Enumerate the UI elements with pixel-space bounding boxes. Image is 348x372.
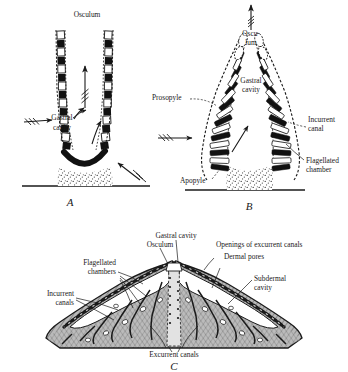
panel-letter-c: C: [170, 360, 178, 372]
label-subdermal-cavity-c-line2: cavity: [254, 283, 272, 292]
label-dermal-pores-c: Dermal pores: [224, 252, 264, 261]
label-openings-excurrent-canals-c: Openings of excurrent canals: [216, 240, 303, 249]
label-gastral-cavity-b-line1: Gastral: [240, 76, 261, 85]
label-gastral-cavity-a-line1: Gastral: [51, 113, 72, 122]
label-flagellated-chamber-b-line2: chamber: [306, 165, 332, 174]
label-incurrent-canal-b-line1: Incurrent: [308, 115, 336, 124]
label-osculum-c: Osculum: [147, 240, 174, 249]
label-gastral-cavity-a-line2: cavity: [53, 123, 71, 132]
label-flagellated-chambers-c-line2: chambers: [88, 267, 116, 276]
label-excurrent-canals-c: Excurrent canals: [149, 350, 199, 359]
osculum-c: [166, 263, 182, 271]
label-gastral-cavity-c: Gastral cavity: [155, 231, 197, 240]
label-flagellated-chamber-b-line1: Flagellated: [306, 156, 339, 165]
label-flagellated-chambers-c-line1: Flagellated: [83, 258, 116, 267]
label-gastral-cavity-b-line2: cavity: [242, 85, 260, 94]
panel-letter-a: A: [66, 196, 74, 208]
label-incurrent-canals-c-line1: Incurrent: [47, 289, 75, 298]
label-prosopyle-b: Prosopyle: [152, 93, 182, 102]
sponge-canal-systems-figure: Osculum Gastral cavity A: [0, 0, 348, 372]
label-incurrent-canal-b-line2: canal: [308, 124, 324, 133]
label-osculum-b-line1: Oscu-: [242, 29, 260, 38]
panel-letter-b: B: [246, 200, 253, 212]
label-incurrent-canals-c-line2: canals: [56, 298, 75, 307]
label-osculum-a: Osculum: [74, 10, 101, 19]
label-apopyle-b: Apopyle: [180, 176, 206, 185]
label-osculum-b-line2: lum: [245, 38, 257, 47]
label-subdermal-cavity-c-line1: Subdermal: [254, 274, 286, 283]
